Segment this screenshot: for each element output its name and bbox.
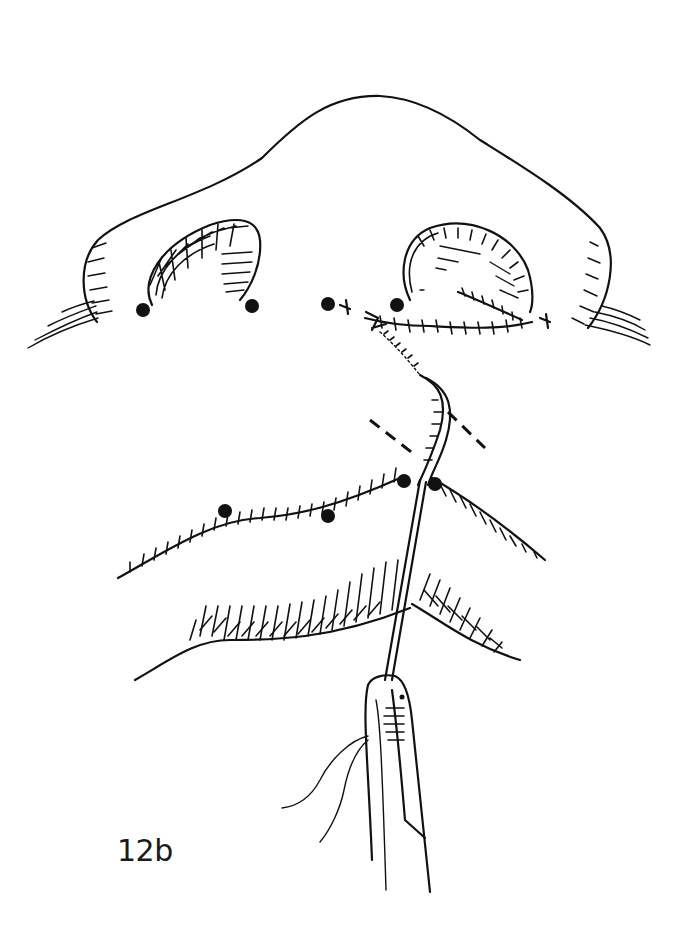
- lower-lip: [135, 560, 520, 680]
- dashed-guide-left: [370, 420, 415, 455]
- left-nostril: [149, 220, 261, 305]
- dot-peak-mid: [321, 509, 335, 523]
- nostril-sill-suture: [458, 288, 522, 320]
- figure-label: 12b: [117, 833, 173, 868]
- dot-cupid-left: [397, 474, 411, 488]
- suture-thread: [282, 736, 368, 842]
- right-nostril: [404, 224, 533, 312]
- dashed-guide-right: [448, 412, 485, 448]
- dot-columella-right: [390, 298, 404, 312]
- dot-columella-left: [321, 297, 335, 311]
- landmark-dots: [136, 297, 442, 523]
- dot-cupid-right: [428, 477, 442, 491]
- suture-needle: [385, 480, 426, 680]
- surgical-illustration: [0, 0, 683, 937]
- dot-left-ala-base: [136, 303, 150, 317]
- needle-holder: [365, 675, 430, 892]
- columella-incision: [380, 331, 450, 485]
- left-ala-shading: [28, 243, 112, 348]
- vermilion-border: [118, 468, 545, 578]
- nasal-floor-suture: [340, 300, 550, 334]
- dot-peak-left: [218, 504, 232, 518]
- dot-left-nostril-sill: [245, 299, 259, 313]
